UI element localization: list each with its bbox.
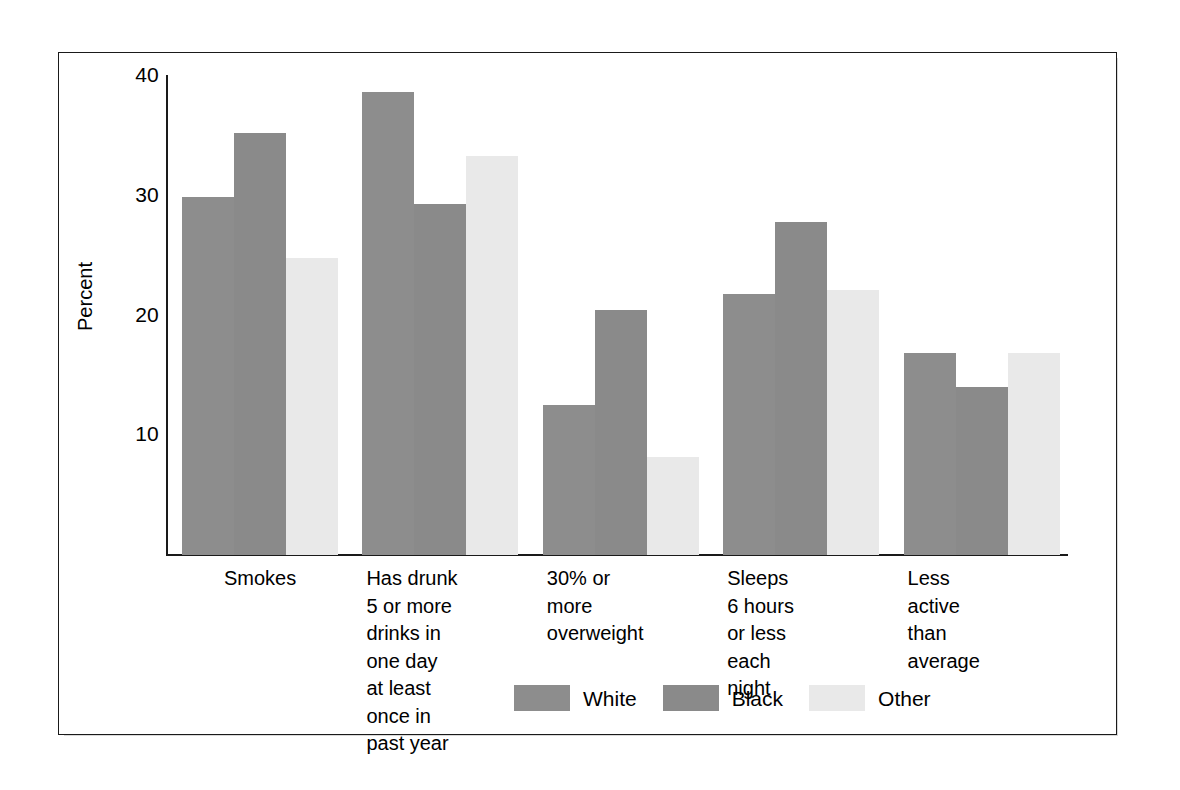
legend-item-white[interactable]: White — [514, 685, 637, 711]
black-swatch — [663, 685, 719, 711]
bar-white-2[interactable] — [362, 92, 414, 555]
bar-other-5[interactable] — [1008, 353, 1060, 555]
bar-other-2[interactable] — [466, 156, 518, 555]
other-swatch — [809, 685, 865, 711]
bars-layer — [166, 53, 1068, 555]
chart-plot-area: 40302010 Percent SmokesHas drunk 5 or mo… — [59, 53, 1118, 736]
y-axis-tick-labels: 40302010 — [97, 53, 159, 563]
legend-label-other: Other — [878, 688, 931, 709]
category-label-1: Smokes — [224, 565, 296, 593]
category-label-4: Sleeps 6 hours or less each night — [727, 565, 794, 703]
bar-black-3[interactable] — [595, 310, 647, 555]
bar-white-3[interactable] — [543, 405, 595, 555]
white-swatch — [514, 685, 570, 711]
category-label-3: 30% or more overweight — [547, 565, 644, 648]
bar-group-1 — [182, 53, 338, 555]
bar-black-1[interactable] — [234, 133, 286, 555]
y-tick-40: 40 — [113, 64, 159, 85]
bar-white-4[interactable] — [723, 294, 775, 555]
bar-group-3 — [543, 53, 699, 555]
y-tick-30: 30 — [113, 184, 159, 205]
category-label-2: Has drunk 5 or more drinks in one day at… — [366, 565, 457, 758]
legend-item-other[interactable]: Other — [809, 685, 931, 711]
legend-label-white: White — [583, 688, 637, 709]
bar-group-5 — [904, 53, 1060, 555]
bar-group-4 — [723, 53, 879, 555]
bar-white-1[interactable] — [182, 197, 234, 555]
legend-item-black[interactable]: Black — [663, 685, 783, 711]
y-axis-title: Percent — [74, 227, 97, 367]
bar-black-5[interactable] — [956, 387, 1008, 555]
bar-other-1[interactable] — [286, 258, 338, 555]
bar-group-2 — [362, 53, 518, 555]
y-tick-20: 20 — [113, 304, 159, 325]
bar-black-4[interactable] — [775, 222, 827, 555]
figure-frame: 40302010 Percent SmokesHas drunk 5 or mo… — [58, 52, 1117, 735]
bar-other-4[interactable] — [827, 290, 879, 555]
y-tick-10: 10 — [113, 423, 159, 444]
bar-black-2[interactable] — [414, 204, 466, 555]
chart-legend: WhiteBlackOther — [514, 685, 931, 711]
category-label-5: Less active than average — [908, 565, 980, 675]
bar-white-5[interactable] — [904, 353, 956, 555]
legend-label-black: Black — [732, 688, 783, 709]
bar-other-3[interactable] — [647, 457, 699, 555]
